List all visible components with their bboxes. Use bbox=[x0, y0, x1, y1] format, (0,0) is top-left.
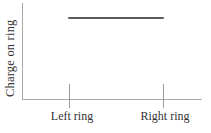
x-tick-label-left-ring: Left ring bbox=[40, 109, 104, 124]
y-axis-line bbox=[22, 3, 23, 99]
y-axis-label: Charge on ring bbox=[3, 19, 18, 97]
x-axis-line bbox=[22, 99, 202, 100]
constant-charge-data-line bbox=[68, 17, 164, 19]
x-tick-right-ring bbox=[163, 84, 164, 108]
x-tick-label-right-ring: Right ring bbox=[133, 109, 197, 124]
x-tick-left-ring bbox=[69, 84, 70, 108]
charge-on-ring-chart: Charge on ring Left ring Right ring bbox=[0, 0, 211, 133]
